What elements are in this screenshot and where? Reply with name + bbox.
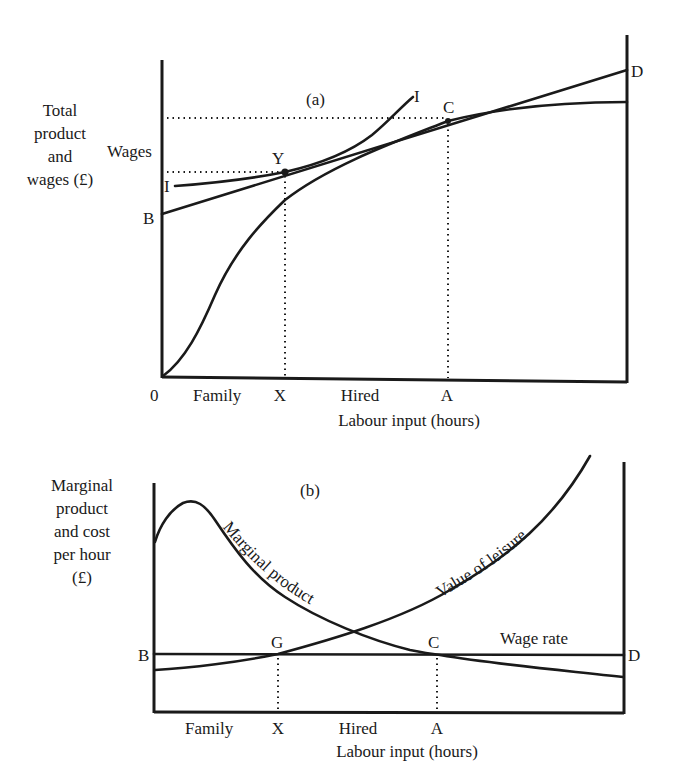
point-b-label-b: B	[138, 646, 149, 665]
panel-b-title: (b)	[300, 481, 320, 500]
panel-a-title: (a)	[306, 90, 325, 109]
x-family-label-b: Family	[185, 719, 234, 738]
wage-rate-line	[154, 654, 624, 655]
point-g-label: G	[271, 633, 283, 652]
point-c-marker	[445, 118, 451, 124]
x-x-label-a: X	[274, 386, 286, 405]
point-b-label-a: B	[143, 209, 154, 228]
x-a-label-b: A	[431, 719, 444, 738]
y-label-a-line1: Total	[43, 101, 78, 120]
x-hired-label-a: Hired	[341, 386, 380, 405]
y-label-a-line2: product	[34, 124, 86, 143]
x-axis-title-b: Labour input (hours)	[336, 742, 478, 761]
x-axis-title-a: Labour input (hours)	[338, 411, 480, 430]
curve-i-right-label: I	[414, 87, 420, 106]
x-x-label-b: X	[272, 719, 284, 738]
x-axis-a	[162, 377, 627, 382]
point-y-label: Y	[272, 149, 284, 168]
value-of-leisure-label: Value of leisure	[433, 526, 530, 602]
x-family-label-a: Family	[193, 386, 242, 405]
panel-b: Marginal product Value of leisure (b) Ma…	[51, 456, 640, 761]
y-label-b-line1: Marginal	[51, 476, 113, 495]
point-c-label-a: C	[443, 98, 454, 117]
wages-label: Wages	[107, 142, 152, 161]
y-label-b-line4: per hour	[53, 545, 110, 564]
y-label-b-line5: (£)	[72, 568, 92, 587]
point-c-label-b: C	[428, 633, 439, 652]
point-y-marker	[281, 168, 288, 175]
y-label-a-line3: and	[48, 147, 73, 166]
point-d-label-b: D	[628, 646, 640, 665]
x-origin-label: 0	[150, 386, 159, 405]
y-label-b-line3: and cost	[54, 522, 110, 541]
x-axis-b	[154, 712, 624, 713]
panel-a: (a) Total product and wages (£) Wages B …	[27, 35, 644, 430]
marginal-product-label: Marginal product	[219, 517, 318, 608]
x-a-label-a: A	[441, 386, 454, 405]
wage-rate-label: Wage rate	[500, 629, 568, 648]
y-label-a-line4: wages (£)	[27, 170, 94, 189]
figure: (a) Total product and wages (£) Wages B …	[0, 0, 673, 771]
total-product-curve	[163, 102, 627, 376]
point-d-label-a: D	[631, 62, 643, 81]
y-label-b-line2: product	[56, 499, 108, 518]
curve-i-left-label: I	[164, 177, 170, 196]
x-hired-label-b: Hired	[339, 719, 378, 738]
